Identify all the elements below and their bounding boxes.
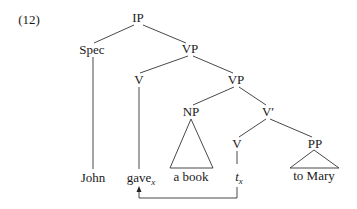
edge-vp-np [193, 87, 234, 105]
node-vp-lower: VP [228, 73, 245, 87]
pp-triangle [290, 150, 339, 168]
leaf-a-book: a book [173, 170, 208, 184]
leaf-to-mary: to Mary [293, 169, 335, 183]
node-vp-upper: VP [182, 42, 199, 56]
edge-vp-vbar [239, 87, 266, 105]
node-ip: IP [132, 11, 144, 25]
np-triangle [170, 119, 213, 168]
edge-ip-vp [143, 25, 186, 43]
leaf-john: John [81, 171, 106, 185]
leaf-gave: gavex [127, 171, 156, 185]
node-spec: Spec [79, 43, 104, 57]
edge-vp-vp [193, 56, 233, 73]
edge-ip-spec [94, 25, 134, 43]
edge-vbar-pp [270, 119, 312, 137]
node-v-lower: V [232, 137, 241, 151]
node-pp: PP [308, 137, 322, 151]
node-v-upper: V [134, 73, 143, 87]
example-number: (12) [18, 13, 40, 27]
leaf-trace: tx [235, 170, 243, 184]
leaf-gave-index: x [151, 177, 155, 187]
leaf-gave-text: gave [127, 170, 152, 185]
leaf-trace-index: x [239, 176, 243, 186]
arrowhead-icon [137, 186, 142, 192]
edge-vbar-v [239, 119, 266, 137]
edge-vp-v [140, 56, 188, 73]
movement-arrow-line [139, 187, 237, 198]
node-vbar: V′ [262, 105, 274, 119]
node-np: NP [183, 105, 200, 119]
